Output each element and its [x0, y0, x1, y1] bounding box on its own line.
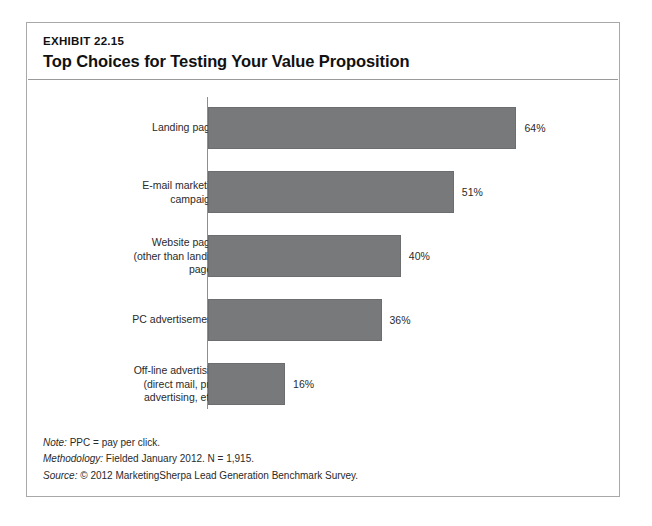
exhibit-header: EXHIBIT 22.15 Top Choices for Testing Yo…	[27, 23, 619, 72]
bar-chart: Landing pages64%E-mail marketingcampaign…	[27, 85, 619, 425]
bar-value-label: 40%	[401, 250, 430, 262]
footnotes: Note: PPC = pay per click.Methodology: F…	[43, 435, 603, 485]
bar-category-label: Landing pages	[61, 121, 221, 135]
title-divider	[28, 79, 618, 80]
bar-category-label: E-mail marketingcampaigns	[61, 179, 221, 206]
bar-row[interactable]: E-mail marketingcampaigns51%	[27, 171, 619, 213]
bar-row[interactable]: PC advertisements36%	[27, 299, 619, 341]
bar-row[interactable]: Website pages(other than landingpages)40…	[27, 235, 619, 277]
bar-value-label: 64%	[516, 122, 545, 134]
bar-category-label: Website pages(other than landingpages)	[61, 236, 221, 277]
footnote-line: Methodology: Fielded January 2012. N = 1…	[43, 451, 603, 468]
page-title: Top Choices for Testing Your Value Propo…	[43, 51, 603, 72]
footnote-label: Source:	[43, 470, 77, 481]
bar-fill[interactable]	[208, 107, 516, 149]
footnote-text: Fielded January 2012. N = 1,915.	[103, 453, 254, 464]
exhibit-number: EXHIBIT 22.15	[43, 34, 603, 49]
bar-fill[interactable]	[208, 363, 285, 405]
bar-value-label: 36%	[382, 314, 411, 326]
bar-track: 36%	[208, 299, 382, 341]
bar-category-label: Off-line advertising(direct mail, printa…	[61, 364, 221, 405]
footnote-label: Methodology:	[43, 453, 103, 464]
exhibit-frame: EXHIBIT 22.15 Top Choices for Testing Yo…	[26, 22, 620, 497]
footnote-label: Note:	[43, 437, 67, 448]
footnote-line: Note: PPC = pay per click.	[43, 435, 603, 452]
bar-track: 51%	[208, 171, 454, 213]
footnote-line: Source: © 2012 MarketingSherpa Lead Gene…	[43, 468, 603, 485]
bar-fill[interactable]	[208, 235, 401, 277]
bar-row[interactable]: Landing pages64%	[27, 107, 619, 149]
bar-track: 40%	[208, 235, 401, 277]
bar-value-label: 51%	[454, 186, 483, 198]
bar-track: 16%	[208, 363, 285, 405]
footnote-text: © 2012 MarketingSherpa Lead Generation B…	[77, 470, 358, 481]
bar-track: 64%	[208, 107, 516, 149]
bar-category-label: PC advertisements	[61, 313, 221, 327]
footnote-text: PPC = pay per click.	[67, 437, 160, 448]
bar-fill[interactable]	[208, 299, 382, 341]
bar-fill[interactable]	[208, 171, 454, 213]
bar-value-label: 16%	[285, 378, 314, 390]
bar-row[interactable]: Off-line advertising(direct mail, printa…	[27, 363, 619, 405]
